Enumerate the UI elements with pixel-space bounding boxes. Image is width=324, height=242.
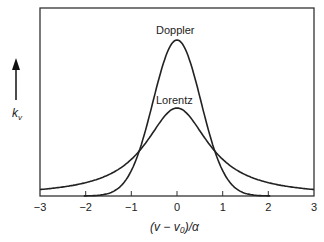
- doppler-label: Doppler: [156, 24, 195, 36]
- x-tick: 2: [265, 201, 271, 213]
- plot-area: [0, 0, 324, 242]
- x-tick: 1: [220, 201, 226, 213]
- x-tick: −3: [34, 201, 47, 213]
- x-tick: 0: [174, 201, 180, 213]
- lorentz-curve: [40, 108, 314, 190]
- x-tick: −2: [79, 201, 92, 213]
- x-axis-label: (v − v₀)/α: [150, 220, 199, 234]
- y-axis-label: kv: [12, 106, 22, 122]
- lorentz-label: Lorentz: [156, 94, 193, 106]
- arrow-up-icon: [12, 58, 20, 70]
- x-tick: −1: [125, 201, 138, 213]
- chart: Doppler Lorentz kv −3 −2 −1 0 1 2 3 (v −…: [0, 0, 324, 242]
- x-tick: 3: [311, 201, 317, 213]
